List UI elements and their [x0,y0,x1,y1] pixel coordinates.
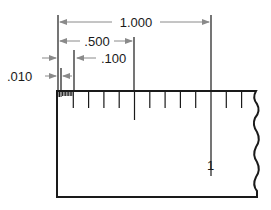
ruler-outline [57,91,259,197]
decimal-scale-diagram: 1.000 .500 .100 .010 1 [0,0,271,210]
dimension-label-hundredth: .010 [7,69,32,84]
tenth-ticks [73,92,241,176]
dimension-label-one: 1.000 [120,15,153,30]
hundredth-ticks [58,92,72,97]
dimension-label-half: .500 [84,34,109,49]
dimension-label-tenth: .100 [101,51,126,66]
scale-number-one: 1 [207,158,214,173]
